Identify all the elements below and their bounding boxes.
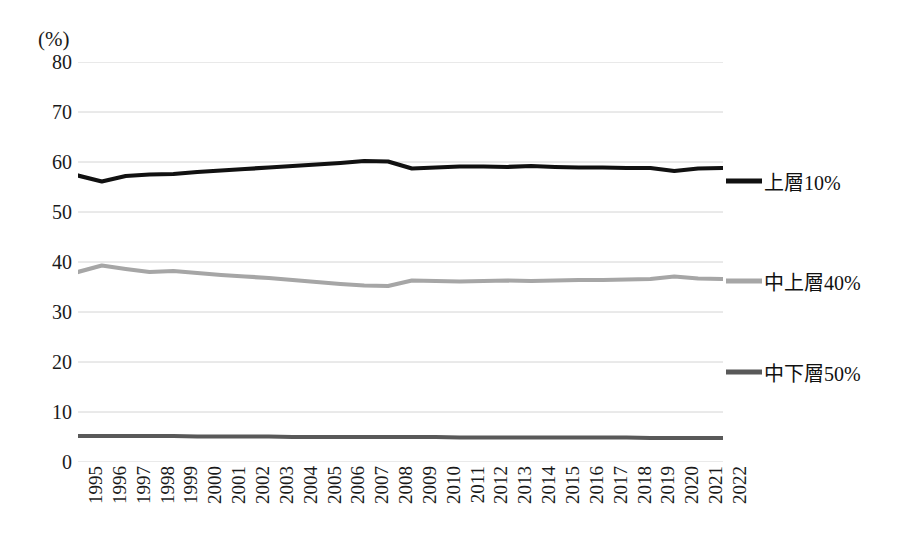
x-axis-tick-label: 2011 — [468, 466, 487, 503]
x-axis-tick-label: 2018 — [635, 466, 654, 504]
y-axis-tick-label: 10 — [30, 402, 72, 422]
x-axis-tick-label: 2013 — [515, 466, 534, 504]
x-axis-tick-label: 2006 — [348, 466, 367, 504]
legend-color-swatch — [726, 179, 762, 184]
x-axis-tick-label: 1996 — [110, 466, 129, 504]
y-axis-tick-label: 20 — [30, 352, 72, 372]
legend-label: 中下層50% — [764, 358, 861, 387]
series-lines — [78, 161, 722, 438]
x-axis-tick-label: 2007 — [372, 466, 391, 504]
x-axis-tick-label: 2019 — [658, 466, 677, 504]
y-axis-tick-label: 50 — [30, 202, 72, 222]
x-axis-tick-label: 2012 — [491, 466, 510, 504]
y-axis-tick-label: 80 — [30, 52, 72, 72]
legend-entry[interactable]: 上層10% — [726, 167, 841, 196]
x-axis-tick-label: 2005 — [325, 466, 344, 504]
x-axis-tick-label: 2016 — [587, 466, 606, 504]
legend-entry[interactable]: 中下層50% — [726, 358, 861, 387]
legend-label: 中上層40% — [764, 267, 861, 296]
x-axis-tick-label: 2017 — [611, 466, 630, 504]
x-axis-tick-label: 2010 — [444, 466, 463, 504]
y-axis-tick-labels: 80706050403020100 — [28, 0, 72, 538]
y-axis-tick-label: 0 — [30, 452, 72, 472]
legend-color-swatch — [726, 370, 762, 375]
x-axis-tick-label: 2000 — [205, 466, 224, 504]
x-axis-tick-label: 2002 — [253, 466, 272, 504]
series-line — [78, 266, 722, 287]
x-axis-tick-label: 2015 — [563, 466, 582, 504]
legend-label: 上層10% — [764, 167, 841, 196]
x-axis-tick-label: 2008 — [396, 466, 415, 504]
x-axis-tick-label: 2001 — [229, 466, 248, 504]
series-line — [78, 436, 722, 438]
x-axis-tick-label: 1995 — [86, 466, 105, 504]
x-axis-tick-label: 1997 — [134, 466, 153, 504]
y-axis-tick-label: 40 — [30, 252, 72, 272]
x-axis-tick-labels: 1995199619971998199920002001200220032004… — [78, 466, 723, 538]
x-axis-tick-label: 2004 — [301, 466, 320, 504]
y-axis-tick-label: 70 — [30, 102, 72, 122]
x-axis-tick-label: 1999 — [181, 466, 200, 504]
series-line — [78, 161, 722, 182]
x-axis-tick-label: 2003 — [277, 466, 296, 504]
series-plot — [78, 62, 723, 462]
legend-color-swatch — [726, 279, 762, 284]
y-axis-tick-label: 60 — [30, 152, 72, 172]
chart-legend: 上層10%中上層40%中下層50% — [726, 0, 907, 538]
x-axis-tick-label: 2009 — [420, 466, 439, 504]
x-axis-tick-label: 2020 — [682, 466, 701, 504]
legend-entry[interactable]: 中上層40% — [726, 267, 861, 296]
x-axis-tick-label: 2021 — [706, 466, 725, 504]
x-axis-tick-label: 2014 — [539, 466, 558, 504]
gridlines — [78, 62, 723, 462]
plot-area — [78, 62, 723, 462]
x-axis-tick-label: 1998 — [158, 466, 177, 504]
chart-container: (%) 80706050403020100 199519961997199819… — [0, 0, 907, 538]
y-axis-tick-label: 30 — [30, 302, 72, 322]
